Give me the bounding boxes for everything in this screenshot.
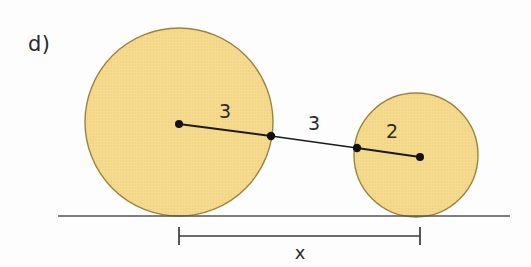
figure-canvas: d) 3 3 2 x [0, 0, 531, 267]
gap-length-label: 3 [308, 112, 320, 134]
panel-letter-label: d) [28, 32, 51, 56]
geometry-figure: d) 3 3 2 x [0, 0, 531, 267]
small-radius-label: 2 [386, 120, 398, 142]
tangent-point-right-dot [353, 144, 361, 152]
large-circle-center-dot [175, 120, 183, 128]
small-circle-center-dot [416, 153, 424, 161]
x-dimension-label: x [295, 242, 306, 263]
large-radius-label: 3 [219, 100, 231, 122]
small-circle [354, 93, 478, 217]
gap-segment [271, 136, 357, 148]
tangent-point-left-dot [267, 132, 275, 140]
